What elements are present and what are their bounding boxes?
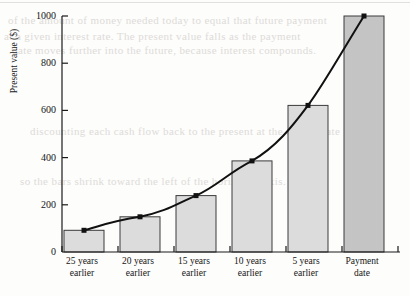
bar-10-years-earlier: [232, 161, 272, 252]
x-tick-label-20-years-earlier-line2: earlier: [114, 268, 162, 280]
chart-plot-area: [0, 0, 410, 296]
x-tick-label-25-years-earlier: 25 years earlier: [58, 256, 106, 279]
x-tick-label-15-years-earlier-line2: earlier: [170, 268, 218, 280]
x-tick-label-25-years-earlier-line2: earlier: [58, 268, 106, 280]
curve-marker-10-years-earlier: [250, 158, 255, 163]
curve-marker-20-years-earlier: [138, 214, 143, 219]
y-tick-label-400: 400: [18, 153, 56, 163]
x-tick-label-payment-date-line1: Payment: [338, 256, 386, 268]
figure-present-value-chart: of the amount of money needed today to e…: [0, 0, 410, 296]
y-tick-label-800: 800: [18, 58, 56, 68]
x-tick-label-5-years-earlier: 5 years earlier: [282, 256, 330, 279]
x-tick-label-payment-date: Payment date: [338, 256, 386, 279]
y-tick-label-200: 200: [18, 200, 56, 210]
x-tick-label-10-years-earlier: 10 years earlier: [226, 256, 274, 279]
y-axis-ticks: [62, 16, 68, 205]
curve-marker-5-years-earlier: [306, 103, 311, 108]
x-tick-label-10-years-earlier-line2: earlier: [226, 268, 274, 280]
y-tick-label-1000: 1000: [18, 11, 56, 21]
bar-payment-date: [344, 16, 384, 252]
x-tick-label-15-years-earlier: 15 years earlier: [170, 256, 218, 279]
bar-15-years-earlier: [176, 196, 216, 252]
x-tick-label-payment-date-line2: date: [338, 268, 386, 280]
x-tick-label-5-years-earlier-line1: 5 years: [282, 256, 330, 268]
curve-marker-payment-date: [362, 14, 367, 19]
x-tick-label-10-years-earlier-line1: 10 years: [226, 256, 274, 268]
x-tick-label-5-years-earlier-line2: earlier: [282, 268, 330, 280]
x-tick-label-25-years-earlier-line1: 25 years: [58, 256, 106, 268]
bar-series: [64, 16, 384, 252]
y-tick-label-600: 600: [18, 105, 56, 115]
bar-25-years-earlier: [64, 230, 104, 252]
x-tick-label-15-years-earlier-line1: 15 years: [170, 256, 218, 268]
x-tick-label-20-years-earlier-line1: 20 years: [114, 256, 162, 268]
x-tick-label-20-years-earlier: 20 years earlier: [114, 256, 162, 279]
curve-marker-25-years-earlier: [82, 228, 87, 233]
bar-20-years-earlier: [120, 217, 160, 252]
y-tick-label-0: 0: [18, 247, 56, 257]
bar-5-years-earlier: [288, 105, 328, 252]
curve-marker-15-years-earlier: [194, 193, 199, 198]
